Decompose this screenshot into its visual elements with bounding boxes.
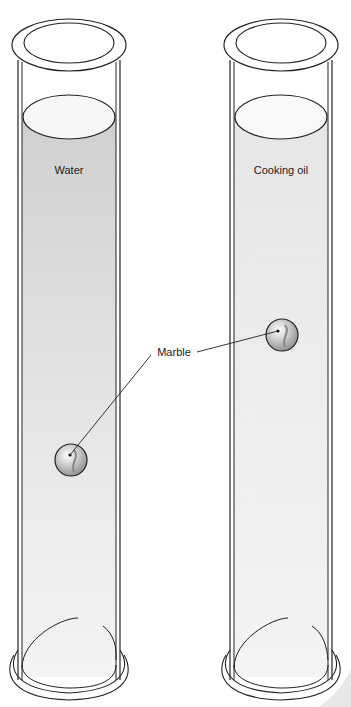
- marble-label: Marble: [157, 346, 191, 358]
- water-liquid: [22, 117, 116, 677]
- water-surface: [23, 95, 115, 139]
- marble-in-oil: [266, 319, 298, 351]
- water-label: Water: [55, 164, 84, 176]
- cylinder-water: Water: [10, 19, 128, 700]
- marble-in-water: [55, 444, 87, 476]
- cooking-oil-label: Cooking oil: [254, 164, 308, 176]
- oil-liquid: [234, 117, 328, 677]
- cylinder-cooking-oil: Cooking oil: [222, 19, 340, 700]
- oil-surface: [235, 95, 327, 139]
- diagram-canvas: Water Cooking oil Marble: [0, 0, 351, 707]
